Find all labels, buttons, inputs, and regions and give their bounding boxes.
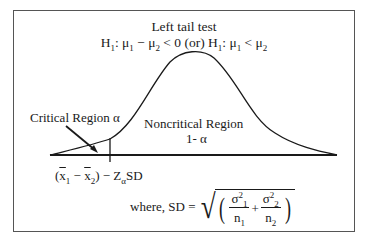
fraction-sample-2: σ22 n2 — [261, 192, 281, 224]
alternative-hypothesis: H1: μ1 − μ2 < 0 (or) H1: μ1 < μ2 — [0, 36, 368, 50]
critical-region-arrow — [66, 126, 95, 150]
diagram-title: Left tail test — [0, 20, 368, 34]
critical-value-expression: (x1 − x2) − ZαSD — [55, 169, 143, 182]
noncritical-region-label: Noncritical Region — [144, 117, 243, 130]
fraction-sample-1: σ21 n1 — [229, 192, 249, 224]
noncritical-region-value: 1- α — [186, 132, 207, 145]
sd-formula: where, SD = √ ( σ21 n1 + σ22 n2 ) — [130, 189, 295, 224]
square-root: √ ( σ21 n1 + σ22 n2 ) — [199, 189, 295, 224]
critical-region-label: Critical Region α — [30, 111, 120, 124]
